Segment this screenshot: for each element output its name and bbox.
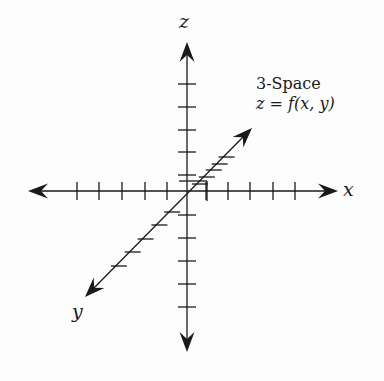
diagram-caption: 3-Space z = f(x, y) <box>256 74 335 114</box>
z-axis-label: z <box>179 10 189 32</box>
z-axis <box>178 42 196 352</box>
coordinate-axes <box>0 0 384 381</box>
caption-equation: z = f(x, y) <box>256 94 335 114</box>
caption-title: 3-Space <box>256 74 335 94</box>
three-space-diagram: z x y 3-Space z = f(x, y) <box>0 0 384 381</box>
equation-equals: = <box>264 94 288 113</box>
x-axis-label: x <box>343 178 354 200</box>
y-axis-label: y <box>72 300 83 322</box>
y-axis <box>85 128 252 297</box>
equation-args: (x, y) <box>294 94 335 113</box>
